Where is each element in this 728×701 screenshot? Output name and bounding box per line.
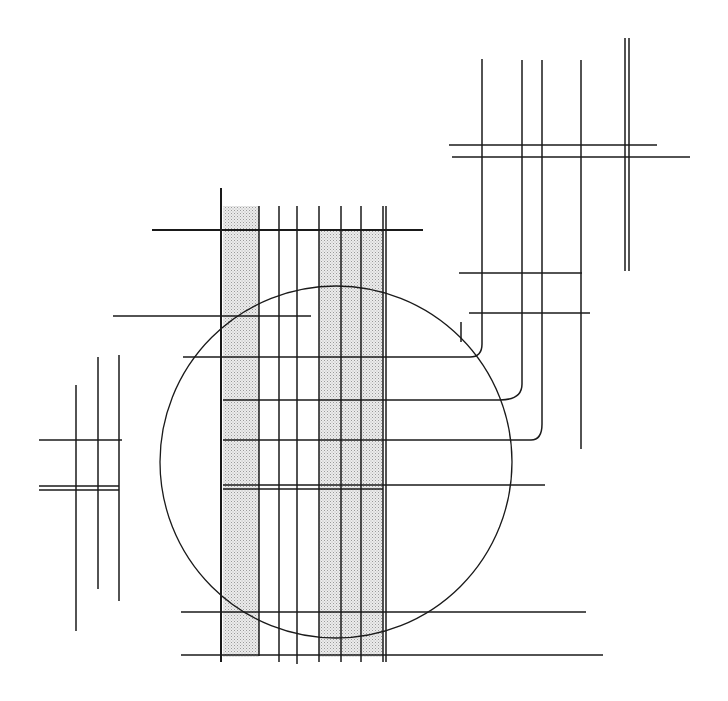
- shaded-band: [223, 206, 259, 657]
- curved-connector: [531, 424, 542, 440]
- artwork-svg: [0, 0, 728, 701]
- shaded-bands: [223, 206, 383, 657]
- shaded-band: [319, 230, 383, 657]
- abstract-grid-artwork: [0, 0, 728, 701]
- curved-connectors: [470, 344, 542, 440]
- curved-connector: [500, 384, 522, 400]
